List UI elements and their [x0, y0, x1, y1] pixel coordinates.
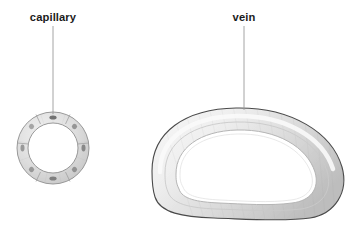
- vein-label: vein: [233, 11, 256, 23]
- diagram-canvas: capillary vein: [0, 0, 356, 240]
- capillary-nucleus: [21, 145, 25, 152]
- diagram-svg: capillary vein: [0, 0, 356, 240]
- capillary-lumen: [28, 123, 78, 173]
- capillary-nucleus: [49, 116, 56, 120]
- capillary-nucleus: [49, 177, 56, 181]
- vein-structure: [152, 101, 346, 226]
- capillary-structure: [17, 108, 89, 186]
- capillary-nucleus: [82, 145, 86, 152]
- capillary-label: capillary: [30, 11, 77, 23]
